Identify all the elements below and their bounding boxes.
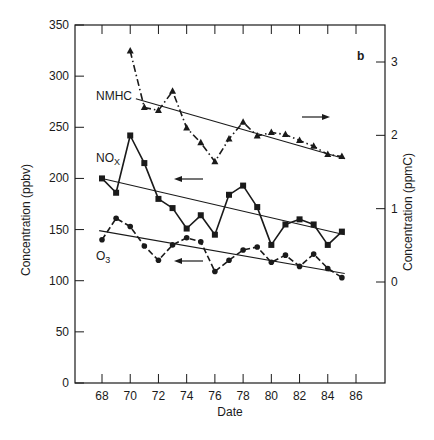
- marker-circle: [311, 251, 317, 257]
- x-tick-label: 78: [236, 389, 250, 403]
- marker-circle: [156, 257, 162, 263]
- marker-square: [311, 221, 317, 227]
- x-tick-label: 70: [124, 389, 138, 403]
- series-line-nox: [102, 136, 342, 245]
- marker-triangle: [183, 124, 190, 131]
- marker-circle: [325, 266, 331, 272]
- marker-square: [155, 196, 161, 202]
- x-tick-label: 86: [349, 389, 363, 403]
- marker-square: [113, 190, 119, 196]
- marker-circle: [170, 242, 176, 248]
- marker-circle: [240, 247, 246, 253]
- marker-circle: [297, 264, 303, 270]
- marker-triangle: [296, 136, 303, 143]
- nox-label-main: NO: [96, 151, 114, 165]
- marker-square: [297, 216, 303, 222]
- series-line-nmhc: [130, 51, 342, 162]
- marker-square: [141, 160, 147, 166]
- y-left-tick-label: 150: [49, 223, 69, 237]
- marker-square: [325, 242, 331, 248]
- marker-triangle: [169, 87, 176, 94]
- x-tick-label: 84: [321, 389, 335, 403]
- y-right-tick-label: 2: [391, 128, 398, 142]
- marker-circle: [283, 252, 289, 258]
- trend-line-o3: [99, 231, 345, 274]
- y-left-tick-label: 300: [49, 69, 69, 83]
- marker-square: [268, 242, 274, 248]
- marker-circle: [127, 224, 133, 230]
- y-right-tick-label: 3: [391, 55, 398, 69]
- y-right-tick-label: 0: [391, 275, 398, 289]
- marker-square: [184, 226, 190, 232]
- marker-square: [99, 175, 105, 181]
- marker-circle: [339, 275, 345, 281]
- marker-circle: [142, 243, 148, 249]
- marker-triangle: [226, 135, 233, 142]
- x-tick-label: 68: [95, 389, 109, 403]
- marker-square: [282, 221, 288, 227]
- y-left-tick-label: 350: [49, 18, 69, 32]
- series-line-o3: [102, 218, 342, 277]
- marker-circle: [184, 235, 190, 241]
- x-tick-label: 74: [180, 389, 194, 403]
- x-tick-label: 72: [152, 389, 166, 403]
- plot-frame: [75, 25, 385, 383]
- marker-square: [240, 183, 246, 189]
- marker-square: [226, 192, 232, 198]
- marker-circle: [269, 260, 275, 266]
- o3-left-arrow-icon-head: [174, 258, 182, 264]
- marker-circle: [113, 216, 119, 222]
- y-axis-left-title: Concentration (ppbv): [19, 164, 33, 276]
- y-left-tick-label: 200: [49, 171, 69, 185]
- marker-square: [339, 229, 345, 235]
- chart: 0501001502002503003500123687072747678808…: [0, 0, 434, 440]
- nmhc-right-arrow-icon-head: [322, 114, 330, 120]
- y-left-tick-label: 0: [62, 376, 69, 390]
- data-series: [99, 47, 345, 280]
- x-tick-label: 80: [265, 389, 279, 403]
- marker-circle: [99, 237, 105, 243]
- marker-triangle: [282, 131, 289, 138]
- o3-label-main: O: [96, 249, 105, 263]
- marker-square: [170, 205, 176, 211]
- nox-left-arrow-icon-head: [174, 176, 182, 182]
- x-tick-label: 76: [208, 389, 222, 403]
- x-axis-title: Date: [217, 405, 243, 419]
- y-left-tick-label: 250: [49, 120, 69, 134]
- x-tick-label: 82: [293, 389, 307, 403]
- trend-lines: [99, 99, 345, 274]
- marker-circle: [198, 239, 204, 245]
- plot-border: [75, 25, 385, 383]
- nox-label-sub: X: [114, 157, 120, 167]
- y-left-tick-label: 100: [49, 274, 69, 288]
- marker-square: [212, 232, 218, 238]
- marker-square: [127, 132, 133, 138]
- marker-triangle: [141, 103, 148, 110]
- nox-label: NOX: [96, 151, 120, 167]
- marker-triangle: [268, 128, 275, 135]
- marker-circle: [226, 257, 232, 263]
- axis-arrows: [174, 114, 330, 264]
- marker-square: [198, 212, 204, 218]
- marker-circle: [254, 244, 260, 250]
- y-axis-right-title: Concentration (ppmC): [401, 153, 415, 271]
- marker-triangle: [240, 118, 247, 125]
- trend-line-nmhc: [136, 99, 345, 159]
- nmhc-label: NMHC: [96, 89, 132, 103]
- marker-square: [254, 204, 260, 210]
- o3-label: O3: [96, 249, 110, 265]
- panel-label: b: [357, 49, 364, 63]
- o3-label-sub: 3: [105, 255, 110, 265]
- marker-triangle: [197, 139, 204, 146]
- trend-line-nox: [102, 178, 345, 234]
- y-right-tick-label: 1: [391, 202, 398, 216]
- marker-circle: [212, 269, 218, 275]
- y-left-tick-label: 50: [56, 325, 70, 339]
- marker-triangle: [127, 47, 134, 54]
